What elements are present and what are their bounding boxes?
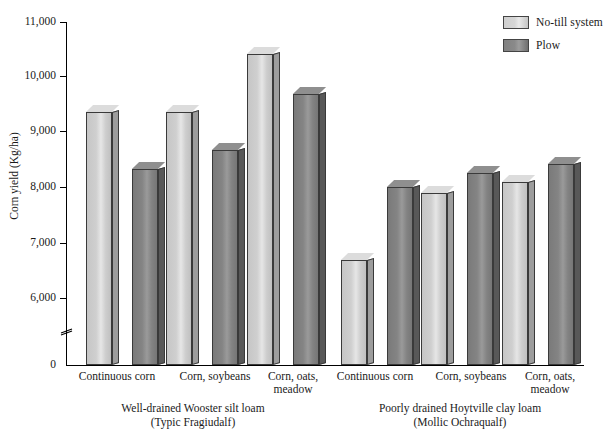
bar-no-till-hoytville-corn-soybeans [421,186,447,365]
category-label-hoytville-continuous-corn: Continuous corn [320,370,430,383]
bar-plow-wooster-corn-soybeans [212,143,238,365]
bar-no-till-wooster-continuous-corn [86,105,112,365]
group-label-hoytville: Poorly drained Hoytville clay loam (Moll… [325,401,595,429]
x-axis-line [66,365,584,366]
y-label-9000: 9,000 [30,124,56,136]
bar-no-till-wooster-corn-soybeans [166,105,192,365]
y-label-8000: 8,000 [30,180,56,192]
bar-plow-hoytville-continuous-corn [387,180,413,365]
bar-no-till-hoytville-continuous-corn [341,253,367,365]
y-label-11000: 11,000 [25,15,56,27]
bar-no-till-wooster-corn-oats-meadow [247,47,273,365]
category-label-wooster-continuous-corn: Continuous corn [62,370,172,383]
y-label-0: 0 [50,358,56,370]
y-axis-title: Corn yield (Kg/ha) [8,66,20,286]
bar-plow-hoytville-corn-soybeans [467,166,493,365]
y-label-7000: 7,000 [30,236,56,248]
bar-plow-hoytville-corn-oats-meadow [548,157,574,365]
y-label-10000: 10,000 [24,69,56,81]
plot-area [66,22,584,365]
bar-plow-wooster-continuous-corn [132,162,158,365]
category-label-hoytville-corn-oats-meadow: Corn, oats, meadow [500,370,600,396]
group-label-wooster: Well-drained Wooster silt loam (Typic Fr… [58,401,328,429]
y-axis-tick-labels: 11,000 10,000 9,000 8,000 7,000 6,000 0 … [0,0,56,429]
bar-no-till-hoytville-corn-oats-meadow [502,175,528,365]
bar-plow-wooster-corn-oats-meadow [293,87,319,365]
y-label-6000: 6,000 [30,291,56,303]
